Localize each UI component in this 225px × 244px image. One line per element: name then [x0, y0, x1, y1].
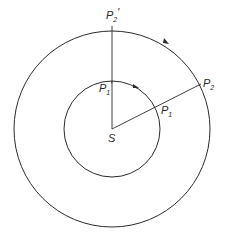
label-p1: P1: [161, 104, 172, 118]
label-p2: P2: [203, 77, 214, 91]
label-p2-prime: P2′: [106, 6, 120, 23]
label-p1-prime: P1′: [99, 79, 113, 96]
orbit-diagram: P2′ P1′ P2 P1 S: [0, 0, 225, 244]
inner-orbit-arrow-icon: [133, 84, 139, 88]
outer-orbit-arrow-icon: [163, 38, 169, 44]
label-s: S: [108, 132, 116, 144]
radius-to-p2: [112, 84, 201, 129]
